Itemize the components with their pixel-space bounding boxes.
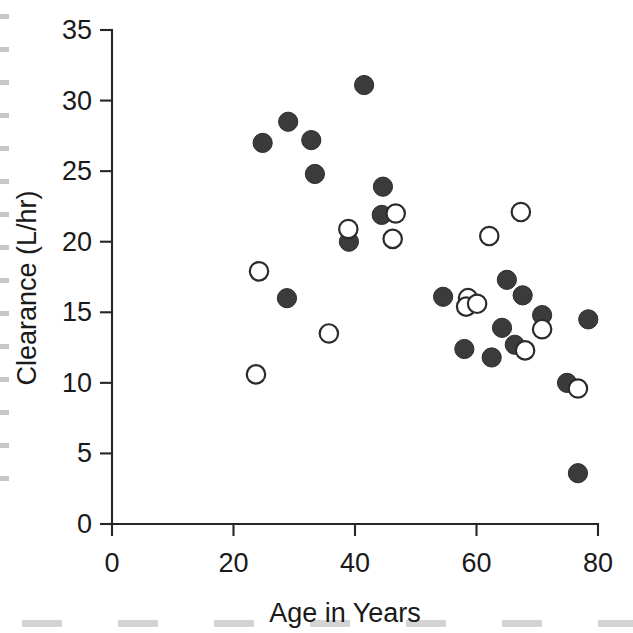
- data-point-open: [247, 365, 265, 383]
- data-point-open: [320, 324, 338, 342]
- data-point-filled: [277, 289, 296, 308]
- x-tick-labels: 020406080: [104, 548, 613, 578]
- data-point-filled: [482, 348, 501, 367]
- data-point-filled: [433, 287, 452, 306]
- data-point-filled: [497, 270, 516, 289]
- data-point-filled: [568, 464, 587, 483]
- x-axis: [112, 524, 598, 536]
- data-point-filled: [579, 310, 598, 329]
- x-tick-label: 60: [461, 548, 491, 578]
- data-point-filled: [513, 286, 532, 305]
- y-tick-label: 5: [77, 438, 92, 468]
- data-point-open: [516, 341, 534, 359]
- scatter-plot: 05101520253035 020406080 Age in Years Cl…: [0, 0, 633, 633]
- y-axis-ticks: [100, 30, 112, 524]
- data-point-open: [250, 262, 268, 280]
- data-point-open: [387, 204, 405, 222]
- y-tick-label: 35: [62, 15, 92, 45]
- x-axis-ticks: [112, 524, 598, 536]
- y-tick-labels: 05101520253035: [62, 15, 92, 539]
- data-point-filled: [492, 318, 511, 337]
- data-point-open: [468, 295, 486, 313]
- x-tick-label: 0: [104, 548, 119, 578]
- y-tick-label: 20: [62, 227, 92, 257]
- x-axis-title: Age in Years: [269, 598, 421, 628]
- figure-canvas: 05101520253035 020406080 Age in Years Cl…: [0, 0, 633, 633]
- y-tick-label: 10: [62, 368, 92, 398]
- data-point-filled: [279, 112, 298, 131]
- y-tick-label: 30: [62, 86, 92, 116]
- data-point-open: [383, 230, 401, 248]
- x-tick-label: 40: [340, 548, 370, 578]
- y-axis: [100, 30, 112, 524]
- x-tick-label: 80: [583, 548, 613, 578]
- y-tick-label: 0: [77, 509, 92, 539]
- data-point-filled: [305, 164, 324, 183]
- data-point-open: [480, 227, 498, 245]
- y-tick-label: 25: [62, 156, 92, 186]
- data-point-filled: [253, 133, 272, 152]
- data-point-filled: [373, 177, 392, 196]
- data-point-filled: [302, 130, 321, 149]
- data-points-filled: [253, 75, 598, 482]
- data-point-open: [569, 379, 587, 397]
- data-points-open: [247, 203, 587, 398]
- data-point-filled: [455, 339, 474, 358]
- data-point-open: [512, 203, 530, 221]
- data-point-open: [339, 220, 357, 238]
- data-point-filled: [355, 75, 374, 94]
- x-tick-label: 20: [218, 548, 248, 578]
- y-tick-label: 15: [62, 297, 92, 327]
- data-point-open: [533, 320, 551, 338]
- y-axis-title: Clearance (L/hr): [12, 190, 42, 385]
